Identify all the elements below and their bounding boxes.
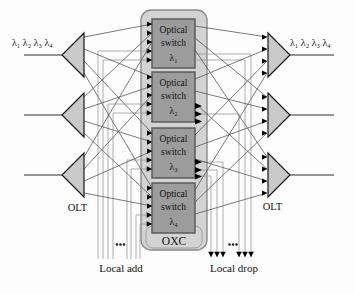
olt-mux-triangle-3 [268, 153, 290, 197]
switch-1-lambda: λ₁ [170, 53, 178, 63]
olt-mux-group [268, 33, 334, 197]
switch-3-line2: switch [161, 147, 186, 157]
switch-1-line1: Optical [160, 25, 188, 35]
switch-2-lambda: λ₂ [170, 106, 178, 116]
olt-demux-triangle-3 [62, 153, 84, 197]
local-drop-label: Local drop [210, 262, 258, 274]
switch-2-line1: Optical [160, 78, 188, 88]
oxc-architecture-diagram: Optical switch λ₁ Optical switch λ₂ Opti… [0, 0, 355, 294]
switch-2-line2: switch [161, 91, 186, 101]
oxc-label: OXC [162, 235, 187, 247]
wavelength-label-right: λ₁ λ₂ λ₃ λ₄ [290, 37, 331, 48]
olt-mux-triangle-1 [268, 33, 290, 77]
switch-4-line1: Optical [160, 189, 188, 199]
wavelength-label-left: λ₁ λ₂ λ₃ λ₄ [12, 37, 53, 48]
olt-label-left: OLT [68, 202, 88, 213]
olt-label-right: OLT [263, 201, 283, 212]
switch-3-line1: Optical [160, 134, 188, 144]
olt-demux-group [24, 33, 84, 197]
olt-demux-triangle-1 [62, 33, 84, 77]
switch-1-line2: switch [161, 38, 186, 48]
ellipsis-drop [228, 243, 238, 246]
diagram-canvas: Optical switch λ₁ Optical switch λ₂ Opti… [0, 0, 355, 294]
local-add-label: Local add [99, 262, 143, 274]
switch-4-line2: switch [161, 202, 186, 212]
switch-3-lambda: λ₃ [170, 162, 178, 172]
olt-demux-triangle-2 [62, 93, 84, 137]
ellipsis-add [116, 243, 126, 246]
switch-4-lambda: λ₄ [170, 217, 178, 227]
olt-mux-triangle-2 [268, 93, 290, 137]
